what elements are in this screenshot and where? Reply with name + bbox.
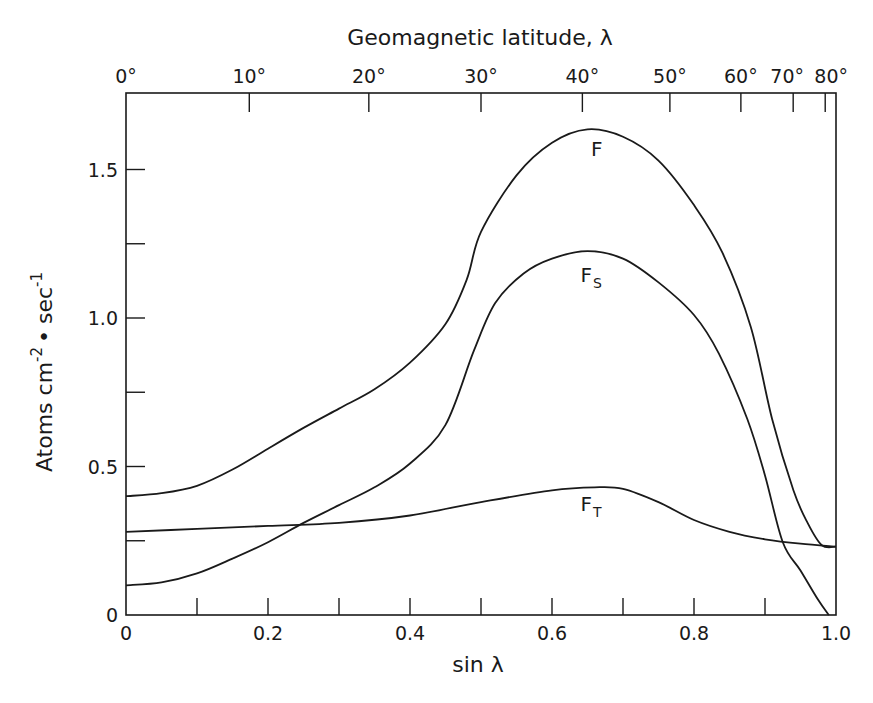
y-axis-ticks: 00.51.01.5 <box>88 159 145 627</box>
top-axis-ticks: 0°10°20°30°40°50°60°70°80° <box>115 65 848 112</box>
x-axis-title: sin λ <box>452 652 504 677</box>
y-axis-title-base: Atoms cm <box>32 362 57 472</box>
curve-f-s <box>126 251 829 615</box>
y-axis-title-unit2: sec <box>32 287 57 324</box>
y-tick-label: 1.0 <box>88 307 118 329</box>
x-tick-label: 0.6 <box>537 622 567 644</box>
top-tick-label: 80° <box>814 65 848 87</box>
y-axis-title-text: Atoms cm-2•sec-1 <box>28 272 57 472</box>
y-tick-label: 0.5 <box>88 456 118 478</box>
curve-f-t <box>126 487 836 547</box>
x-tick-label: 1.0 <box>821 622 851 644</box>
top-tick-label: 50° <box>653 65 687 87</box>
y-tick-label: 0 <box>106 604 118 626</box>
x-axis-ticks: 00.20.40.60.81.0 <box>120 598 851 644</box>
top-tick-label: 30° <box>464 65 498 87</box>
plot-frame <box>126 93 836 615</box>
y-tick-label: 1.5 <box>88 159 118 181</box>
series-label-f-s: FS <box>580 263 602 291</box>
x-tick-label: 0.2 <box>253 622 283 644</box>
top-tick-label: 0° <box>115 65 137 87</box>
series-label-f-t: FT <box>580 492 602 520</box>
x-tick-label: 0 <box>120 622 132 644</box>
series-labels: FFSFT <box>580 137 602 520</box>
plot-curves <box>126 129 836 615</box>
series-label-f: F <box>591 137 603 161</box>
top-tick-label: 70° <box>770 65 804 87</box>
curve-f <box>126 129 836 547</box>
x-tick-label: 0.8 <box>679 622 709 644</box>
top-tick-label: 10° <box>232 65 266 87</box>
top-axis-title: Geomagnetic latitude, λ <box>347 25 613 50</box>
x-tick-label: 0.4 <box>395 622 425 644</box>
top-axis-title-group: Geomagnetic latitude, λ <box>347 25 613 50</box>
y-axis-title: Atoms cm-2•sec-1 <box>28 272 57 472</box>
top-tick-label: 60° <box>724 65 758 87</box>
chart-canvas: Geomagnetic latitude, λ 0°10°20°30°40°50… <box>0 0 873 703</box>
y-axis-title-dot: • <box>32 330 57 343</box>
top-tick-label: 40° <box>566 65 600 87</box>
y-axis-title-exp2: -1 <box>28 272 46 287</box>
y-axis-title-exp1: -2 <box>28 347 46 362</box>
top-tick-label: 20° <box>352 65 386 87</box>
